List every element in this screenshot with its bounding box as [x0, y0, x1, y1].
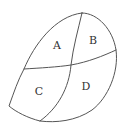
- region-diagram: A B C D: [0, 0, 124, 133]
- vertical-divider: [40, 13, 82, 121]
- outer-boundary: [9, 13, 116, 122]
- horizontal-divider: [24, 50, 116, 69]
- region-label-d: D: [82, 80, 91, 93]
- region-label-a: A: [52, 39, 62, 52]
- region-label-b: B: [89, 34, 97, 47]
- region-label-c: C: [35, 85, 43, 98]
